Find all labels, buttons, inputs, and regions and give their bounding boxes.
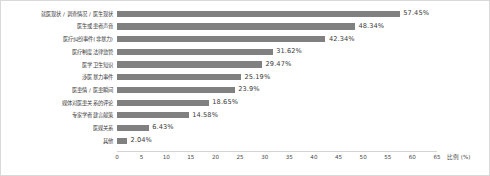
- x-tick-label: 0: [115, 154, 119, 161]
- bar-row: 媒体对医患关系的评论18.65%: [1, 97, 490, 109]
- x-tick-label: 20: [212, 154, 219, 161]
- bar-row: 医生或患者声音48.34%: [1, 21, 490, 33]
- category-label: 医患情 / 医患瞬间: [1, 87, 117, 93]
- category-label: 专家学者建言献策: [1, 112, 117, 118]
- x-tick-label: 30: [261, 154, 268, 161]
- bar: [117, 74, 241, 80]
- bar: [117, 23, 355, 29]
- category-label: 医疗纠纷事件(非暴力): [1, 36, 117, 42]
- category-label: 医媒关系: [1, 125, 117, 131]
- bar-track: 18.65%: [117, 97, 490, 109]
- bar-value-label: 14.58%: [192, 112, 218, 119]
- x-tick-label: 65: [433, 154, 440, 161]
- bar-row: 医学卫生知识29.47%: [1, 59, 490, 71]
- bar-value-label: 2.04%: [131, 137, 152, 144]
- x-tick-label: 40: [310, 154, 317, 161]
- bar-value-label: 6.43%: [152, 124, 173, 131]
- x-tick-label: 35: [286, 154, 293, 161]
- bar-row: 医媒关系6.43%: [1, 122, 490, 134]
- bar-track: 48.34%: [117, 21, 490, 33]
- bar: [117, 112, 189, 118]
- bar: [117, 49, 273, 55]
- x-axis-title: 比例 (%): [447, 154, 470, 161]
- bar: [117, 61, 262, 67]
- bar-value-label: 29.47%: [266, 61, 292, 68]
- x-tick-label: 5: [140, 154, 144, 161]
- horizontal-bar-chart: 就医现状 / 调查情况 / 医生现状57.45%医生或患者声音48.34%医疗纠…: [0, 0, 490, 176]
- bar-track: 42.34%: [117, 33, 490, 45]
- category-label: 涉医暴力事件: [1, 74, 117, 80]
- bar-row: 涉医暴力事件25.19%: [1, 71, 490, 83]
- bar-row: 其他2.04%: [1, 135, 490, 147]
- bar-track: 14.58%: [117, 110, 490, 122]
- category-label: 媒体对医患关系的评论: [1, 100, 117, 106]
- bar-track: 29.47%: [117, 59, 490, 71]
- bar-value-label: 57.45%: [403, 10, 429, 17]
- category-label: 就医现状 / 调查情况 / 医生现状: [1, 11, 117, 17]
- x-tick-label: 10: [163, 154, 170, 161]
- bar: [117, 36, 325, 42]
- bar: [117, 138, 127, 144]
- x-tick-label: 50: [360, 154, 367, 161]
- bar-value-label: 25.19%: [245, 74, 271, 81]
- bar-track: 23.9%: [117, 84, 490, 96]
- bar-track: 57.45%: [117, 8, 490, 20]
- bar-track: 31.62%: [117, 46, 490, 58]
- plot-area: 就医现状 / 调查情况 / 医生现状57.45%医生或患者声音48.34%医疗纠…: [1, 1, 489, 175]
- bar: [117, 100, 209, 106]
- x-axis-line: [117, 151, 437, 152]
- bar-row: 医患情 / 医患瞬间23.9%: [1, 84, 490, 96]
- x-tick-label: 15: [187, 154, 194, 161]
- x-tick-label: 60: [409, 154, 416, 161]
- x-axis: 05101520253035404550556065 比例 (%): [117, 151, 490, 171]
- bar: [117, 11, 400, 17]
- category-label: 医学卫生知识: [1, 62, 117, 68]
- bar-row: 专家学者建言献策14.58%: [1, 110, 490, 122]
- bar-track: 25.19%: [117, 71, 490, 83]
- bar-row: 就医现状 / 调查情况 / 医生现状57.45%: [1, 8, 490, 20]
- bar-rows: 就医现状 / 调查情况 / 医生现状57.45%医生或患者声音48.34%医疗纠…: [1, 8, 490, 148]
- bar: [117, 125, 149, 131]
- x-tick-label: 55: [384, 154, 391, 161]
- category-label: 医生或患者声音: [1, 23, 117, 29]
- bar-row: 医疗制度法律监管31.62%: [1, 46, 490, 58]
- bar-row: 医疗纠纷事件(非暴力)42.34%: [1, 33, 490, 45]
- bar-value-label: 23.9%: [238, 86, 259, 93]
- bar-value-label: 42.34%: [329, 36, 355, 43]
- bar: [117, 87, 235, 93]
- bar-track: 2.04%: [117, 135, 490, 147]
- category-label: 医疗制度法律监管: [1, 49, 117, 55]
- bar-value-label: 18.65%: [212, 99, 238, 106]
- x-tick-label: 25: [237, 154, 244, 161]
- bar-value-label: 31.62%: [276, 48, 302, 55]
- bar-track: 6.43%: [117, 122, 490, 134]
- bar-value-label: 48.34%: [358, 23, 384, 30]
- x-tick-label: 45: [335, 154, 342, 161]
- category-label: 其他: [1, 138, 117, 144]
